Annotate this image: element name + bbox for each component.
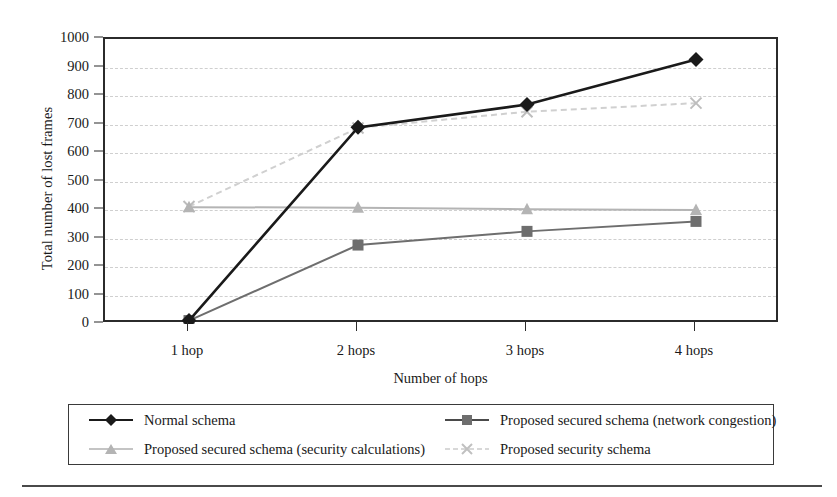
y-axis-ticks: 1000 900 800 700 600 500 400 300 200 100… bbox=[0, 37, 103, 322]
y-tick-mark bbox=[94, 65, 103, 66]
y-tick-mark bbox=[94, 322, 103, 323]
x-tick-label: 3 hops bbox=[506, 342, 544, 359]
y-tick-label: 300 bbox=[67, 228, 89, 245]
legend-label: Normal schema bbox=[144, 413, 235, 428]
series-2 bbox=[183, 201, 702, 215]
x-tick-mark bbox=[525, 322, 526, 331]
legend-item-proposed-security-schema: Proposed security schema bbox=[425, 441, 776, 457]
y-tick-label: 700 bbox=[67, 114, 89, 131]
y-tick-label: 0 bbox=[82, 314, 89, 331]
x-tick-mark bbox=[694, 322, 695, 331]
x-tick-label: 4 hops bbox=[675, 342, 713, 359]
y-tick-mark bbox=[94, 151, 103, 152]
data-point bbox=[520, 97, 535, 112]
legend-label: Proposed secured schema (security calcul… bbox=[144, 442, 425, 457]
y-tick-label: 500 bbox=[67, 171, 89, 188]
x-tick-label: 1 hop bbox=[171, 342, 204, 359]
y-tick-mark bbox=[94, 94, 103, 95]
x-axis-title: Number of hops bbox=[103, 370, 778, 387]
x-tick-mark bbox=[187, 322, 188, 331]
y-tick-label: 1000 bbox=[60, 29, 89, 46]
x-axis-ticks: 1 hop 2 hops 3 hops 4 hops bbox=[103, 322, 778, 368]
y-tick-label: 800 bbox=[67, 86, 89, 103]
data-point bbox=[353, 240, 364, 251]
y-tick-mark bbox=[94, 236, 103, 237]
data-point bbox=[689, 52, 704, 67]
y-tick-label: 200 bbox=[67, 257, 89, 274]
y-tick-mark bbox=[94, 37, 103, 38]
diamond-marker-icon bbox=[87, 412, 135, 428]
data-point bbox=[522, 226, 533, 237]
y-tick-label: 100 bbox=[67, 285, 89, 302]
x-tick-mark bbox=[356, 322, 357, 331]
square-marker-icon bbox=[443, 412, 491, 428]
legend-label: Proposed security schema bbox=[500, 442, 651, 457]
y-tick-label: 400 bbox=[67, 200, 89, 217]
chart-figure: Total number of lost frames 1000 900 800… bbox=[0, 0, 837, 497]
y-tick-mark bbox=[94, 122, 103, 123]
chart-legend: Normal schema Proposed secured schema (n… bbox=[68, 404, 774, 465]
figure-footer-rule bbox=[22, 485, 822, 487]
y-tick-mark bbox=[94, 265, 103, 266]
legend-item-normal-schema: Normal schema bbox=[69, 412, 425, 428]
data-point bbox=[691, 216, 702, 227]
y-tick-mark bbox=[94, 293, 103, 294]
y-tick-mark bbox=[94, 208, 103, 209]
legend-item-security-calculations: Proposed secured schema (security calcul… bbox=[69, 441, 425, 457]
cross-marker-icon bbox=[443, 441, 491, 457]
y-tick-mark bbox=[94, 179, 103, 180]
triangle-marker-icon bbox=[87, 441, 135, 457]
data-series-layer bbox=[105, 39, 780, 324]
legend-item-network-congestion: Proposed secured schema (network congest… bbox=[425, 412, 776, 428]
x-tick-label: 2 hops bbox=[337, 342, 375, 359]
y-tick-label: 900 bbox=[67, 57, 89, 74]
series-1 bbox=[184, 216, 702, 324]
plot-area bbox=[103, 37, 778, 322]
legend-label: Proposed secured schema (network congest… bbox=[500, 413, 776, 428]
series-0 bbox=[182, 52, 704, 324]
y-tick-label: 600 bbox=[67, 143, 89, 160]
